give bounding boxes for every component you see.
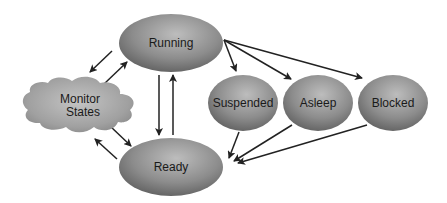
state-diagram: Running Ready Monitor States Suspended A…: [0, 0, 447, 203]
arrow-running-to-asleep: [224, 40, 291, 79]
node-running: Running: [119, 14, 223, 72]
node-monitor-label-line1: Monitor: [60, 92, 100, 106]
node-ready-label: Ready: [154, 160, 189, 174]
node-suspended: Suspended: [208, 75, 278, 131]
arrow-monitor-to-ready: [110, 126, 131, 146]
arrow-running-to-monitor: [90, 51, 112, 72]
node-blocked: Blocked: [358, 75, 428, 131]
arrow-blocked-to-ready: [238, 125, 367, 163]
node-blocked-label: Blocked: [372, 96, 415, 110]
node-asleep: Asleep: [283, 75, 353, 131]
node-asleep-label: Asleep: [300, 96, 337, 110]
node-running-label: Running: [149, 36, 194, 50]
arrow-running-to-blocked: [224, 40, 362, 78]
node-ready: Ready: [119, 138, 223, 196]
arrow-ready-to-monitor: [95, 139, 117, 159]
node-monitor-label-line2: States: [66, 105, 100, 119]
node-monitor-states: Monitor States: [23, 77, 134, 133]
node-suspended-label: Suspended: [213, 96, 274, 110]
arrow-suspended-to-ready: [229, 132, 239, 158]
arrow-monitor-to-running: [104, 62, 127, 84]
arrow-running-to-suspended: [224, 40, 236, 71]
